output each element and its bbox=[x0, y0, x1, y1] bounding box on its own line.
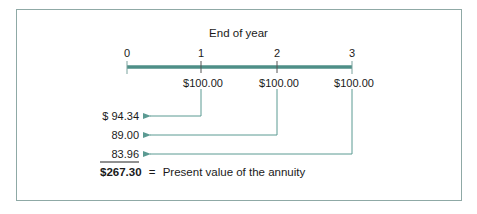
present-value-year-2: 89.00 bbox=[79, 129, 139, 141]
tick-label-0: 0 bbox=[124, 47, 130, 59]
total-description: Present value of the annuity bbox=[163, 166, 306, 178]
equals-sign: = bbox=[149, 166, 156, 178]
payment-label-year-3: $100.00 bbox=[334, 77, 374, 89]
tick-label-1: 1 bbox=[198, 47, 204, 59]
payment-label-year-2: $100.00 bbox=[259, 77, 299, 89]
total-value: $267.30 bbox=[100, 166, 142, 178]
tick-label-3: 3 bbox=[349, 47, 355, 59]
tick-label-2: 2 bbox=[274, 47, 280, 59]
total-line: $267.30 = Present value of the annuity bbox=[100, 166, 305, 178]
payment-label-year-1: $100.00 bbox=[183, 77, 223, 89]
present-value-year-3: 83.96 bbox=[79, 148, 139, 160]
timeline-title: End of year bbox=[0, 27, 477, 39]
present-value-year-1: $ 94.34 bbox=[79, 110, 139, 122]
